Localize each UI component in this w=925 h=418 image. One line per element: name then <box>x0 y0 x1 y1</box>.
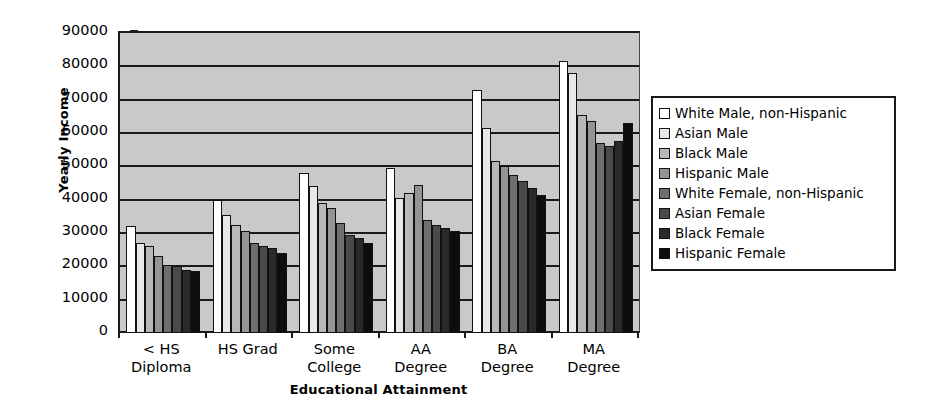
legend-item[interactable]: Black Male <box>659 143 888 163</box>
bar[interactable] <box>559 61 568 333</box>
x-tick-label-line: MA <box>544 340 644 358</box>
bar[interactable] <box>213 200 222 333</box>
bar-group <box>553 33 640 333</box>
bar-group <box>120 33 207 333</box>
legend-swatch-icon <box>659 108 670 119</box>
legend-item[interactable]: Hispanic Female <box>659 243 888 263</box>
bar[interactable] <box>472 90 481 333</box>
legend-swatch-icon <box>659 188 670 199</box>
bar[interactable] <box>172 266 181 333</box>
bar[interactable] <box>404 193 413 333</box>
bar[interactable] <box>587 121 596 333</box>
bar[interactable] <box>596 143 605 333</box>
y-tick-label: 10000 <box>20 290 108 304</box>
x-tick-label-line: Degree <box>457 358 557 376</box>
bar[interactable] <box>509 175 518 333</box>
legend-item[interactable]: Black Female <box>659 223 888 243</box>
bar[interactable] <box>259 246 268 333</box>
legend-label: Black Female <box>675 226 765 240</box>
bar[interactable] <box>432 225 441 333</box>
legend-item[interactable]: White Female, non-Hispanic <box>659 183 888 203</box>
x-tick-label-line: Some <box>284 340 384 358</box>
bar[interactable] <box>309 186 318 333</box>
bar[interactable] <box>327 208 336 333</box>
bar[interactable] <box>423 220 432 333</box>
bar[interactable] <box>136 243 145 333</box>
bar[interactable] <box>191 271 200 333</box>
x-tick-mark <box>378 331 380 338</box>
bar[interactable] <box>491 161 500 333</box>
bar[interactable] <box>500 166 509 333</box>
x-tick-label-line: < HS <box>111 340 211 358</box>
x-tick-mark <box>118 331 120 338</box>
bar[interactable] <box>518 181 527 333</box>
bar-chart-figure: Yearly Income 90000800007000060000500004… <box>0 0 925 418</box>
legend-item[interactable]: White Male, non-Hispanic <box>659 103 888 123</box>
x-tick-mark <box>291 331 293 338</box>
bar[interactable] <box>355 238 364 333</box>
bar[interactable] <box>241 231 250 333</box>
legend-label: White Female, non-Hispanic <box>675 186 864 200</box>
bar[interactable] <box>414 185 423 333</box>
legend-label: Asian Male <box>675 126 748 140</box>
bar[interactable] <box>277 253 286 333</box>
bar[interactable] <box>395 198 404 333</box>
bar[interactable] <box>364 243 373 333</box>
legend-swatch-icon <box>659 248 670 259</box>
bar[interactable] <box>268 248 277 333</box>
x-tick-mark <box>637 331 639 338</box>
bar[interactable] <box>568 73 577 333</box>
bar-group <box>466 33 553 333</box>
x-tick-mark <box>464 331 466 338</box>
y-tick-label: 70000 <box>20 90 108 104</box>
bar[interactable] <box>528 188 537 333</box>
y-tick-label: 20000 <box>20 256 108 270</box>
bar[interactable] <box>386 168 395 333</box>
x-tick-label: < HSDiploma <box>111 340 211 376</box>
legend-swatch-icon <box>659 228 670 239</box>
legend-item[interactable]: Asian Female <box>659 203 888 223</box>
bar-group <box>293 33 380 333</box>
bar[interactable] <box>182 270 191 333</box>
legend-swatch-icon <box>659 208 670 219</box>
x-tick-label-line: Degree <box>371 358 471 376</box>
bar[interactable] <box>345 235 354 333</box>
bar[interactable] <box>537 195 546 333</box>
bar[interactable] <box>577 115 586 333</box>
legend-swatch-icon <box>659 128 670 139</box>
bar[interactable] <box>222 215 231 333</box>
x-tick-label: SomeCollege <box>284 340 384 376</box>
legend-label: Hispanic Male <box>675 166 769 180</box>
bar[interactable] <box>163 265 172 333</box>
bar[interactable] <box>231 225 240 333</box>
legend-item[interactable]: Asian Male <box>659 123 888 143</box>
bar-group <box>380 33 467 333</box>
bar[interactable] <box>614 141 623 333</box>
plot-area <box>118 31 640 333</box>
bar[interactable] <box>336 223 345 333</box>
x-tick-label-line: College <box>284 358 384 376</box>
x-axis-title: Educational Attainment <box>118 382 639 397</box>
bar[interactable] <box>299 173 308 333</box>
x-tick-label-line: AA <box>371 340 471 358</box>
y-tick-label: 90000 <box>20 23 108 37</box>
bar[interactable] <box>450 231 459 333</box>
bar[interactable] <box>154 256 163 333</box>
bar[interactable] <box>318 203 327 333</box>
bar[interactable] <box>126 226 135 333</box>
bar[interactable] <box>605 146 614 333</box>
legend-swatch-icon <box>659 168 670 179</box>
legend-item[interactable]: Hispanic Male <box>659 163 888 183</box>
bar[interactable] <box>441 228 450 333</box>
y-tick-label: 0 <box>20 323 108 337</box>
x-tick-mark <box>551 331 553 338</box>
y-tick-label: 80000 <box>20 56 108 70</box>
y-axis-tick-labels: 9000080000700006000050000400003000020000… <box>20 0 108 418</box>
bar[interactable] <box>145 246 154 333</box>
legend-label: Asian Female <box>675 206 765 220</box>
bar[interactable] <box>482 128 491 333</box>
bar[interactable] <box>250 243 259 333</box>
x-tick-label: HS Grad <box>198 340 298 358</box>
x-tick-label-line: Diploma <box>111 358 211 376</box>
bar[interactable] <box>623 123 632 333</box>
